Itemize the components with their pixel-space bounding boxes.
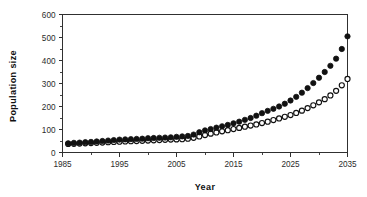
x-axis-ticks [63,153,348,157]
data-point-filled [88,139,93,144]
data-point-filled [276,104,281,109]
data-point-open [237,125,242,130]
y-tick-label: 400 [42,57,56,66]
data-point-filled [305,85,310,90]
data-point-filled [254,113,259,118]
data-point-filled [311,80,316,85]
x-tick-label: 1985 [53,160,72,169]
data-point-filled [208,126,213,131]
x-tick-label: 2015 [224,160,243,169]
data-point-filled [231,121,236,126]
data-point-filled [345,34,350,39]
data-point-filled [111,137,116,142]
data-point-filled [117,137,122,142]
data-point-filled [123,137,128,142]
data-point-filled [71,140,76,145]
data-point-open [288,112,293,117]
y-tick-label: 200 [42,103,56,112]
data-point-filled [333,56,338,61]
x-tick-label: 2005 [167,160,186,169]
data-point-filled [140,136,145,141]
data-point-open [282,114,287,119]
data-point-filled [294,94,299,99]
data-point-filled [322,69,327,74]
x-axis-title: Year [195,182,216,192]
data-point-filled [271,106,276,111]
y-tick-label: 300 [42,80,56,89]
data-point-filled [339,46,344,51]
data-point-open [294,110,299,115]
y-axis-tick-labels: 0100200300400500600 [42,11,56,158]
y-axis-title: Population size [8,50,18,122]
data-point-filled [214,125,219,130]
data-point-filled [174,134,179,139]
data-point-filled [242,117,247,122]
data-point-filled [259,111,264,116]
data-point-filled [77,140,82,145]
data-series-filled-circles [66,34,351,146]
data-point-open [322,97,327,102]
x-tick-label: 2025 [281,160,300,169]
x-axis-tick-labels: 198519952005201520252035 [53,160,357,169]
data-point-open [328,93,333,98]
x-tick-label: 2035 [338,160,357,169]
data-point-filled [202,128,207,133]
data-point-open [242,124,247,129]
data-point-open [220,129,225,134]
data-point-filled [105,138,110,143]
data-point-filled [100,138,105,143]
y-tick-label: 500 [42,34,56,43]
data-point-filled [162,135,167,140]
data-point-filled [316,75,321,80]
x-tick-label: 1995 [110,160,129,169]
data-point-filled [134,136,139,141]
data-point-open [305,106,310,111]
data-point-filled [94,139,99,144]
data-point-filled [299,90,304,95]
y-tick-label: 0 [51,149,56,158]
data-point-open [231,126,236,131]
data-point-filled [282,101,287,106]
data-point-filled [145,136,150,141]
data-point-open [299,108,304,113]
data-point-filled [180,134,185,139]
population-size-scatter-chart: 0100200300400500600 19851995200520152025… [0,0,367,197]
y-tick-label: 100 [42,126,56,135]
data-point-open [225,128,230,133]
data-point-filled [197,130,202,135]
data-point-open [254,122,259,127]
data-point-filled [157,135,162,140]
data-point-filled [151,135,156,140]
data-point-filled [248,115,253,120]
data-point-filled [288,98,293,103]
data-point-open [271,118,276,123]
data-point-open [334,88,339,93]
data-point-open [316,100,321,105]
data-point-open [265,119,270,124]
y-tick-label: 600 [42,11,56,20]
chart-figure: 0100200300400500600 19851995200520152025… [0,0,367,197]
data-point-open [277,116,282,121]
data-point-filled [191,132,196,137]
data-point-open [311,103,316,108]
data-point-open [339,83,344,88]
data-point-filled [128,137,133,142]
data-point-open [345,76,350,81]
data-point-filled [168,135,173,140]
data-point-open [259,121,264,126]
data-point-filled [66,141,71,146]
data-point-filled [83,140,88,145]
data-point-open [248,123,253,128]
data-point-filled [185,133,190,138]
data-point-filled [265,108,270,113]
data-point-filled [225,122,230,127]
data-point-filled [237,119,242,124]
data-point-filled [219,124,224,129]
data-point-filled [328,63,333,68]
y-axis-ticks [59,15,63,153]
